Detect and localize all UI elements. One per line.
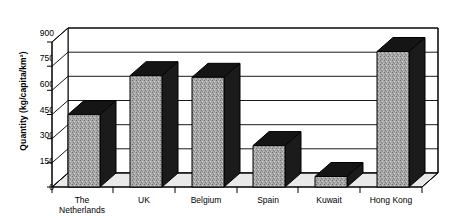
bar-spain — [253, 132, 301, 187]
bar-uk — [130, 62, 178, 187]
bar-the-netherlands — [68, 101, 116, 187]
bar-belgium — [192, 63, 240, 187]
plot-area — [0, 0, 452, 223]
x-tick-hong-kong: Hong Kong — [351, 195, 431, 205]
bar-chart: Quantity (kg/capita/km²) 900 750 600 450… — [0, 0, 452, 223]
bar-hong-kong — [377, 38, 425, 188]
